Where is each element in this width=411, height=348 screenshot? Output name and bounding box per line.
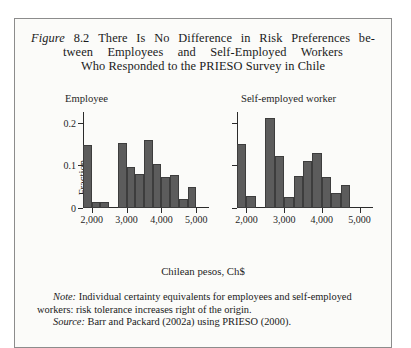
panel-title-employee: Employee	[65, 93, 108, 104]
x-tick-label: 5,000	[348, 214, 371, 225]
note-lead: Note:	[53, 291, 76, 302]
bars-selfemployed	[237, 112, 369, 208]
histogram-bar	[312, 153, 321, 208]
figure-label: Figure	[31, 31, 65, 45]
x-tick-label: 3,000	[273, 214, 296, 225]
x-tick	[322, 208, 323, 213]
title-line-2: tween Employees and Self-Employed Worker…	[29, 45, 377, 59]
x-axis-label: Chilean pesos, Ch$	[15, 265, 391, 277]
x-tick	[196, 208, 197, 213]
source-text: Barr and Packard (2002a) using PRIESO (2…	[85, 316, 291, 327]
histogram-bar	[161, 177, 170, 208]
plot-employee: Fraction 00.10.22,0003,0004,0005,000	[83, 112, 205, 208]
histogram-bar	[179, 199, 188, 208]
histogram-bar	[118, 143, 127, 208]
histogram-bar	[246, 196, 255, 208]
y-tick	[232, 208, 237, 209]
y-tick	[78, 123, 83, 124]
note-paragraph: Note: Individual certainty equivalents f…	[37, 291, 373, 316]
plot-selfemployed: 2,0003,0004,0005,000	[237, 112, 369, 208]
panel-title-selfemployed: Self-employed worker	[241, 93, 336, 104]
histogram-bar	[100, 202, 109, 208]
y-tick	[78, 208, 83, 209]
figure-footnote: Note: Individual certainty equivalents f…	[37, 291, 373, 329]
x-tick	[360, 208, 361, 213]
x-tick	[161, 208, 162, 213]
y-tick-label: 0.1	[64, 160, 77, 171]
histogram-bar	[331, 193, 340, 208]
y-tick-label: 0	[71, 203, 76, 214]
histogram-bar	[341, 185, 350, 208]
x-tick-label: 4,000	[311, 214, 334, 225]
x-tick-label: 2,000	[80, 214, 103, 225]
source-lead: Source:	[53, 316, 85, 327]
histogram-bar	[83, 145, 92, 208]
histogram-bar	[92, 202, 101, 208]
x-tick-label: 3,000	[115, 214, 138, 225]
x-tick-label: 5,000	[185, 214, 208, 225]
histogram-bar	[237, 144, 246, 208]
x-tick-label: 2,000	[235, 214, 258, 225]
x-tick-label: 4,000	[150, 214, 173, 225]
histogram-bar	[303, 161, 312, 208]
y-tick-label: 0.2	[64, 117, 77, 128]
histogram-bar	[265, 118, 274, 208]
x-tick	[127, 208, 128, 213]
figure-title: Figure 8.2 There Is No Difference in Ris…	[29, 31, 377, 74]
title-line-3: Who Responded to the PRIESO Survey in Ch…	[29, 59, 377, 73]
histogram-bar	[188, 187, 197, 208]
charts-container: Employee Fraction 00.10.22,0003,0004,000…	[15, 93, 391, 243]
bars-employee	[83, 112, 205, 208]
source-paragraph: Source: Barr and Packard (2002a) using P…	[37, 316, 373, 329]
histogram-bar	[127, 167, 136, 208]
figure-frame: Figure 8.2 There Is No Difference in Ris…	[14, 18, 392, 348]
title-line-1: There Is No Difference in Risk Preferenc…	[98, 31, 375, 45]
histogram-bar	[294, 176, 303, 208]
y-tick	[78, 165, 83, 166]
x-tick	[246, 208, 247, 213]
x-tick	[284, 208, 285, 213]
histogram-bar	[144, 140, 153, 208]
panel-selfemployed: Self-employed worker 2,0003,0004,0005,00…	[215, 93, 391, 243]
histogram-bar	[153, 164, 162, 208]
figure-number: 8.2	[74, 31, 90, 45]
y-tick	[232, 165, 237, 166]
note-text: Individual certainty equivalents for emp…	[37, 291, 352, 315]
x-tick	[92, 208, 93, 213]
histogram-bar	[135, 174, 144, 208]
y-tick	[232, 123, 237, 124]
histogram-bar	[284, 197, 293, 208]
panel-employee: Employee Fraction 00.10.22,0003,0004,000…	[39, 93, 215, 243]
histogram-bar	[322, 177, 331, 208]
histogram-bar	[275, 156, 284, 208]
histogram-bar	[170, 175, 179, 208]
